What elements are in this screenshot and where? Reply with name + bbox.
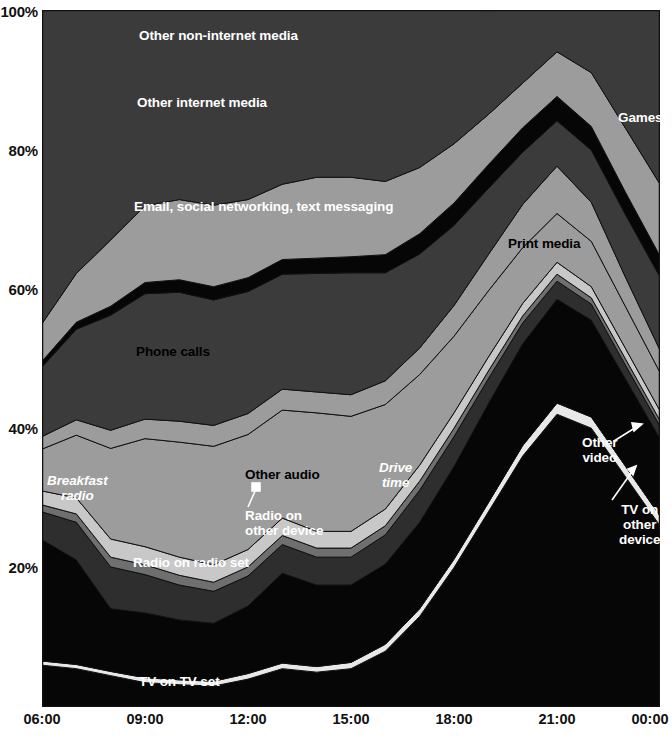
y-tick-40: 40% (9, 420, 38, 437)
x-tick-0600: 06:00 (23, 711, 60, 727)
label-drive-time: Drive time (379, 460, 412, 490)
y-tick-80: 80% (9, 142, 38, 159)
x-tick-1200: 12:00 (229, 711, 266, 727)
label-other-audio: Other audio (245, 467, 320, 482)
x-tick-1800: 18:00 (435, 711, 472, 727)
label-other-non-internet-media: Other non-internet media (139, 28, 298, 43)
label-other-internet-media: Other internet media (137, 95, 267, 110)
x-tick-2100: 21:00 (538, 711, 575, 727)
label-other-video: Other video (582, 435, 618, 465)
label-radio-on-radio-set: Radio on radio set (133, 555, 249, 570)
y-tick-20: 20% (9, 559, 38, 576)
y-tick-100: 100% (0, 3, 38, 20)
label-tv-on-tv-set: TV on TV set (139, 674, 220, 689)
chart-figure: 100% 80% 60% 40% 20% 06:00 09:00 12:00 1… (0, 0, 672, 747)
label-phone-calls: Phone calls (136, 344, 210, 359)
x-tick-0900: 09:00 (126, 711, 163, 727)
label-email-social-text: Email, social networking, text messaging (134, 199, 393, 214)
x-tick-0000: 00:00 (631, 711, 668, 727)
label-tv-on-other-device: TV on other device (619, 502, 660, 547)
y-axis: 100% 80% 60% 40% 20% (0, 0, 38, 747)
label-games: Games (618, 110, 663, 125)
plot-area (42, 10, 660, 707)
label-breakfast-radio: Breakfast radio (47, 473, 108, 503)
label-print-media: Print media (508, 236, 580, 251)
y-tick-60: 60% (9, 281, 38, 298)
label-radio-on-other-device: Radio on other device (245, 508, 323, 538)
stacked-area-series (42, 10, 660, 707)
x-tick-1500: 15:00 (332, 711, 369, 727)
